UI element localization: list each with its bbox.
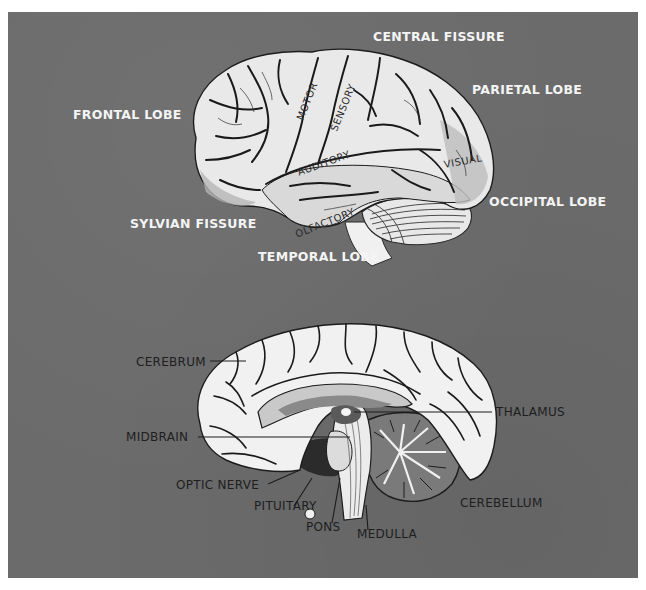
label-pons: PONS xyxy=(306,521,340,533)
label-central-fissure: CENTRAL FISSURE xyxy=(373,31,505,44)
label-frontal-lobe: FRONTAL LOBE xyxy=(73,109,182,122)
label-midbrain: MIDBRAIN xyxy=(126,431,188,443)
label-optic-nerve: OPTIC NERVE xyxy=(176,479,259,491)
label-medulla: MEDULLA xyxy=(357,528,417,540)
label-sylvian-fissure: SYLVIAN FISSURE xyxy=(130,218,257,231)
medial-brain-view xyxy=(198,324,497,530)
label-pituitary: PITUITARY xyxy=(254,500,317,512)
label-cerebrum: CEREBRUM xyxy=(136,356,206,368)
label-occipital-lobe: OCCIPITAL LOBE xyxy=(489,196,606,209)
label-parietal-lobe: PARIETAL LOBE xyxy=(472,84,582,97)
label-temporal-lobe: TEMPORAL LOBE xyxy=(258,251,379,264)
label-thalamus: THALAMUS xyxy=(496,406,565,418)
label-cerebellum: CEREBELLUM xyxy=(460,497,543,509)
